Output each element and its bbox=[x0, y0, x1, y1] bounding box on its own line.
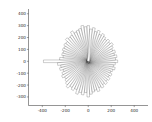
x-tick-label: 400 bbox=[130, 108, 138, 113]
y-tick-label: -100 bbox=[17, 71, 27, 76]
y-tick-label: -300 bbox=[17, 94, 27, 99]
y-tick-label: 100 bbox=[18, 47, 26, 52]
y-tick-label: 200 bbox=[18, 35, 26, 40]
x-tick-label: -200 bbox=[61, 108, 71, 113]
x-axis-ticks: -400-2000200400 bbox=[38, 106, 139, 113]
radial-bars bbox=[43, 25, 117, 97]
y-tick-label: 0 bbox=[23, 59, 26, 64]
x-tick-label: 200 bbox=[107, 108, 115, 113]
figure-canvas: -300-200-1000100200300400 -400-200020040… bbox=[0, 0, 152, 122]
y-tick-label: 400 bbox=[18, 11, 26, 16]
x-tick-label: 0 bbox=[87, 108, 90, 113]
y-tick-label: -200 bbox=[17, 83, 27, 88]
x-tick-label: -400 bbox=[38, 108, 48, 113]
radial-bar-chart: -300-200-1000100200300400 -400-200020040… bbox=[0, 0, 152, 122]
y-tick-label: 300 bbox=[18, 23, 26, 28]
y-axis-ticks: -300-200-1000100200300400 bbox=[17, 11, 29, 99]
